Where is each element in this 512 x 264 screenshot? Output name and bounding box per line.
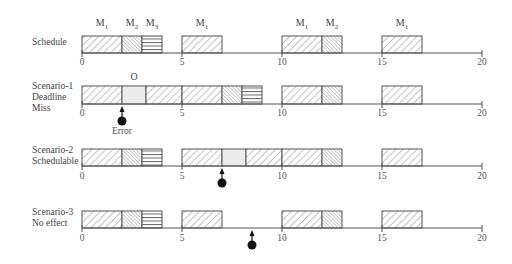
task-block-m3 bbox=[142, 149, 162, 166]
task-block-m2 bbox=[322, 86, 342, 104]
task-block-m3 bbox=[142, 211, 162, 228]
task-block-m1 bbox=[282, 36, 322, 53]
task-block-m1 bbox=[182, 211, 222, 228]
task-name-label: M2 bbox=[126, 17, 138, 31]
task-block-m1 bbox=[82, 86, 122, 104]
tick-label: 15 bbox=[377, 57, 387, 67]
tick-label: 5 bbox=[180, 108, 185, 118]
task-block-m1 bbox=[382, 86, 422, 104]
task-block-m1 bbox=[246, 149, 282, 166]
error-marker-icon bbox=[118, 117, 127, 126]
task-name-label: M1 bbox=[196, 17, 208, 31]
timeline-row bbox=[82, 211, 482, 250]
schedule-diagram: Schedule05101520M1M2M3M1M1M2M1ErrorScena… bbox=[0, 0, 512, 264]
task-name-label: M1 bbox=[296, 17, 308, 31]
error-marker-icon bbox=[218, 179, 227, 188]
task-name-label: M3 bbox=[146, 17, 158, 31]
task-name-label: O bbox=[130, 71, 137, 82]
tick-label: 0 bbox=[80, 233, 85, 243]
row-label: Scenario-2Schedulable bbox=[32, 145, 78, 167]
tick-label: 10 bbox=[277, 171, 287, 181]
tick-label: 10 bbox=[277, 233, 287, 243]
task-block-m1 bbox=[282, 149, 322, 166]
tick-label: 20 bbox=[477, 108, 487, 118]
row-label: Schedule bbox=[32, 37, 67, 48]
tick-label: 5 bbox=[180, 57, 185, 67]
row-label: Scenario-3No effect bbox=[32, 207, 73, 229]
tick-label: 10 bbox=[277, 57, 287, 67]
task-block-m1 bbox=[182, 149, 222, 166]
task-block-m1 bbox=[182, 36, 222, 53]
task-block-m2 bbox=[322, 211, 342, 228]
tick-label: 0 bbox=[80, 171, 85, 181]
error-arrowhead-icon bbox=[220, 168, 225, 174]
task-block-m2 bbox=[122, 149, 142, 166]
task-block-m1 bbox=[146, 86, 182, 104]
timeline-row bbox=[82, 86, 482, 126]
error-arrowhead-icon bbox=[250, 230, 255, 236]
tick-label: 5 bbox=[180, 171, 185, 181]
tick-label: 20 bbox=[477, 57, 487, 67]
row-label: Scenario-1DeadlineMiss bbox=[32, 81, 73, 114]
tick-label: 0 bbox=[80, 108, 85, 118]
diagram-canvas bbox=[0, 0, 512, 264]
task-block-m3 bbox=[142, 36, 162, 53]
task-name-label: M1 bbox=[396, 17, 408, 31]
task-block-m1 bbox=[282, 86, 322, 104]
task-block-m1 bbox=[82, 211, 122, 228]
task-block-m1 bbox=[382, 211, 422, 228]
timeline-row bbox=[82, 36, 482, 57]
tick-label: 15 bbox=[377, 233, 387, 243]
task-block-m2 bbox=[122, 211, 142, 228]
tick-label: 15 bbox=[377, 171, 387, 181]
task-block-m2 bbox=[122, 36, 142, 53]
tick-label: 10 bbox=[277, 108, 287, 118]
task-block-m1 bbox=[382, 36, 422, 53]
task-block-m3 bbox=[242, 86, 262, 104]
task-block-m2 bbox=[222, 86, 242, 104]
tick-label: 5 bbox=[180, 233, 185, 243]
task-block-m1 bbox=[282, 211, 322, 228]
task-block-m1 bbox=[82, 149, 122, 166]
task-block-m2 bbox=[322, 149, 342, 166]
tick-label: 0 bbox=[80, 57, 85, 67]
task-block-o bbox=[122, 86, 146, 104]
error-marker-icon bbox=[248, 241, 257, 250]
task-name-label: M1 bbox=[96, 17, 108, 31]
tick-label: 20 bbox=[477, 171, 487, 181]
tick-label: 20 bbox=[477, 233, 487, 243]
task-name-label: M2 bbox=[326, 17, 338, 31]
timeline-row bbox=[82, 149, 482, 188]
task-block-m2 bbox=[322, 36, 342, 53]
task-block-m1 bbox=[382, 149, 422, 166]
error-label: Error bbox=[112, 126, 132, 136]
task-block-m1 bbox=[182, 86, 222, 104]
task-block-o bbox=[222, 149, 246, 166]
error-arrowhead-icon bbox=[120, 106, 125, 112]
tick-label: 15 bbox=[377, 108, 387, 118]
task-block-m1 bbox=[82, 36, 122, 53]
